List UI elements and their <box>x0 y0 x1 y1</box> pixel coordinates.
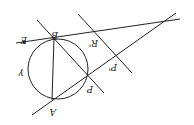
label-B: B <box>51 30 59 40</box>
circle-gamma <box>28 39 88 99</box>
label-gamma: γ <box>18 69 24 79</box>
label-P-prime: P' <box>108 62 118 72</box>
chord-AB <box>52 38 54 100</box>
diagram-svg: E B R' P' P A γ <box>0 0 194 125</box>
line-RP <box>78 14 132 73</box>
geometry-diagram: E B R' P' P A γ <box>0 0 194 125</box>
label-A: A <box>49 107 57 117</box>
label-R-prime: R' <box>89 38 99 48</box>
label-E: E <box>20 35 28 45</box>
label-P: P <box>86 84 94 94</box>
